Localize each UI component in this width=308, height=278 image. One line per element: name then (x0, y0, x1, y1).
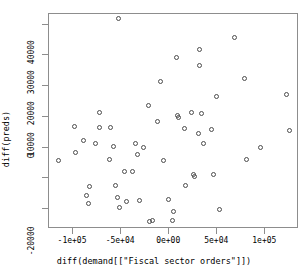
x-axis-tick-label: 0e+00 (156, 236, 180, 245)
data-point (130, 169, 135, 174)
data-point (111, 144, 116, 149)
data-point (158, 79, 163, 84)
data-point (113, 183, 118, 188)
data-point (107, 157, 112, 162)
x-axis-tick (264, 228, 265, 234)
data-point (211, 172, 216, 177)
data-point (214, 94, 219, 99)
data-point (97, 110, 102, 115)
data-point (84, 193, 89, 198)
data-point (199, 111, 204, 116)
data-point (196, 131, 201, 136)
data-point (182, 126, 187, 131)
data-point (150, 218, 155, 223)
data-point (201, 141, 206, 146)
data-point (287, 128, 292, 133)
data-point (72, 124, 77, 129)
data-point (116, 16, 121, 21)
x-axis-tick-label: 1e+05 (252, 236, 276, 245)
data-point (146, 103, 151, 108)
data-point (284, 92, 289, 97)
data-point (56, 158, 61, 163)
data-point (133, 141, 138, 146)
data-point (166, 197, 171, 202)
y-axis-tick (42, 177, 48, 178)
data-point (81, 138, 86, 143)
r-plot-canvas: diff(preds) diff(demand[["Fiscal sector … (0, 0, 308, 278)
data-point (161, 158, 166, 163)
x-axis-tick-label: -1e+05 (58, 236, 87, 245)
data-point (97, 125, 102, 130)
y-axis-tick (42, 208, 48, 209)
scatter-points-layer (49, 14, 297, 227)
y-axis-tick (42, 24, 48, 25)
data-point (217, 207, 222, 212)
y-axis-title: diff(preds) (1, 111, 11, 167)
data-point (93, 141, 98, 146)
data-point (108, 125, 113, 130)
data-point (155, 119, 160, 124)
data-point (183, 183, 188, 188)
x-axis-tick (216, 228, 217, 234)
data-point (124, 199, 129, 204)
x-axis-tick (168, 228, 169, 234)
y-axis-tick (42, 147, 48, 148)
data-point (174, 55, 179, 60)
y-axis-tick (42, 85, 48, 86)
data-point (242, 76, 247, 81)
x-axis-tick (120, 228, 121, 234)
data-point (209, 127, 214, 132)
data-point (258, 145, 263, 150)
data-point (176, 115, 181, 120)
data-point (115, 195, 120, 200)
data-point (73, 150, 78, 155)
data-point (87, 184, 92, 189)
data-point (197, 63, 202, 68)
data-point (170, 218, 175, 223)
x-axis-title: diff(demand[["Fiscal sector orders"]]) (0, 256, 308, 266)
data-point (135, 152, 140, 157)
y-axis-tick (42, 54, 48, 55)
data-point (197, 47, 202, 52)
data-point (86, 201, 91, 206)
data-point (244, 157, 249, 162)
data-point (122, 169, 127, 174)
data-point (192, 174, 197, 179)
data-point (137, 198, 142, 203)
data-point (232, 35, 237, 40)
data-point (171, 209, 176, 214)
y-axis-tick (42, 116, 48, 117)
x-axis-tick-label: 5e+04 (204, 236, 228, 245)
x-axis-tick-label: -5e+04 (106, 236, 135, 245)
x-axis-tick (72, 228, 73, 234)
data-point (117, 205, 122, 210)
data-point (141, 145, 146, 150)
plot-frame (48, 13, 298, 228)
data-point (189, 110, 194, 115)
